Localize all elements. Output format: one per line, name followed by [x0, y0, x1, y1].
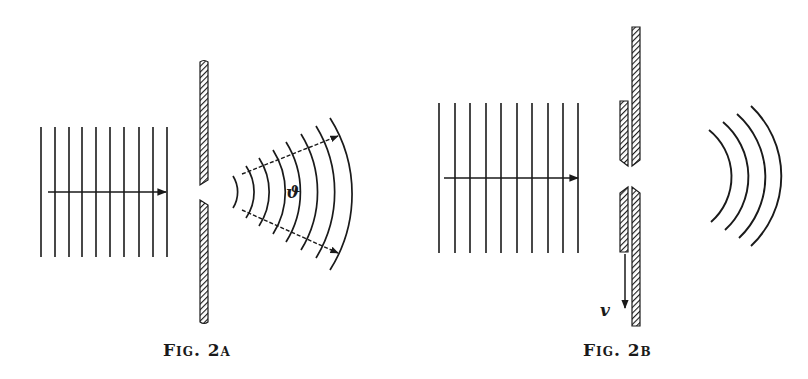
slit-screen-2a: [200, 61, 208, 324]
fixed-screen-2b: [632, 27, 640, 326]
figure-caption-2a: Fig. 2a: [163, 340, 231, 360]
diagram-canvas: [0, 0, 808, 379]
figure-caption-2b: Fig. 2b: [583, 340, 652, 360]
figure-2a: [41, 61, 352, 324]
velocity-label-v: v: [600, 300, 610, 320]
moving-shutter-2b: [620, 101, 628, 252]
ray-upper-2a: [242, 136, 338, 174]
figure-2b: [439, 27, 781, 326]
ray-lower-2a: [242, 210, 338, 253]
diffracted-wavefronts-2b: [709, 106, 781, 246]
angle-label-theta: ϑ: [286, 182, 300, 202]
